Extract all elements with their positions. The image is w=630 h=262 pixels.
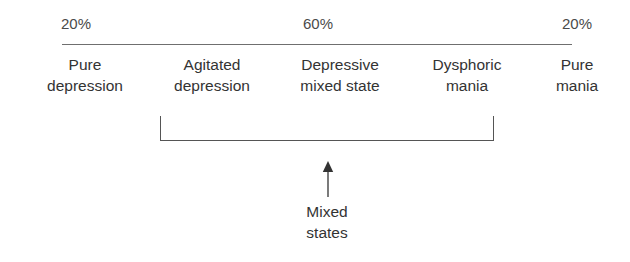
percent-label-middle: 60% — [303, 14, 333, 33]
category-pure-mania: Pure mania — [556, 54, 598, 96]
mixed-states-caption: Mixed states — [306, 201, 347, 243]
category-agitated-depression: Agitated depression — [174, 54, 250, 96]
category-label-line2: mania — [433, 75, 502, 96]
mixed-states-caption-line2: states — [306, 222, 347, 243]
category-label-line2: depression — [47, 75, 123, 96]
category-label-line2: depression — [174, 75, 250, 96]
spectrum-axis-line — [62, 44, 572, 45]
percent-label-left: 20% — [61, 14, 91, 33]
spectrum-diagram: 20% 60% 20% Pure depression Agitated dep… — [0, 0, 630, 262]
category-label-line1: Agitated — [184, 56, 241, 73]
category-dysphoric-mania: Dysphoric mania — [433, 54, 502, 96]
category-depressive-mixed-state: Depressive mixed state — [300, 54, 379, 96]
category-label-line1: Pure — [561, 56, 594, 73]
category-label-line2: mania — [556, 75, 598, 96]
percent-label-right: 20% — [562, 14, 592, 33]
category-label-line1: Dysphoric — [433, 56, 502, 73]
arrow-up-icon — [321, 161, 335, 197]
category-pure-depression: Pure depression — [47, 54, 123, 96]
mixed-states-caption-line1: Mixed — [306, 203, 347, 220]
mixed-states-bracket — [160, 116, 494, 141]
category-label-line1: Pure — [69, 56, 102, 73]
category-label-line1: Depressive — [301, 56, 379, 73]
category-label-line2: mixed state — [300, 75, 379, 96]
